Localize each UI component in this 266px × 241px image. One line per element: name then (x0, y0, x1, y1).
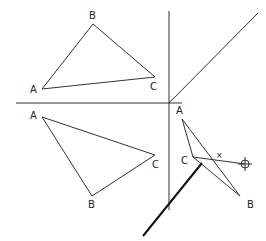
triangle-side-view (182, 119, 240, 196)
vertex-label-c-top: C (150, 81, 157, 92)
vertex-label-c-front: C (152, 159, 159, 170)
vertex-label-c-side: C (181, 155, 188, 166)
top-view-triangle: A B C (30, 10, 157, 95)
diagram-canvas: A B C A B C × A C B (0, 0, 266, 241)
vertex-label-b-top: B (89, 10, 96, 21)
vertex-label-a-top: A (30, 84, 37, 95)
vertex-label-b-front: B (88, 199, 95, 210)
crosshair-cursor-icon[interactable] (238, 157, 252, 171)
vertex-label-b-side: B (247, 199, 254, 210)
thick-edge-line (143, 163, 202, 236)
front-view-triangle: A B C (30, 110, 159, 210)
vertex-label-a-front: A (30, 110, 37, 121)
diagonal-45-line (169, 13, 258, 103)
triangle-top-view (42, 24, 155, 89)
vertex-label-a-side: A (176, 105, 183, 116)
projection-axes (16, 11, 258, 210)
triangle-front-view (42, 117, 155, 196)
intersection-marker: × (216, 151, 223, 160)
side-view-triangle: × A C B (176, 105, 254, 210)
